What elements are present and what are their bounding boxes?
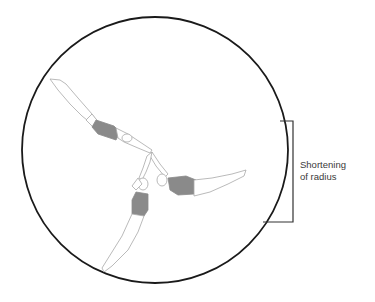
shortening-of-radius-label: Shortening of radius [300,159,346,183]
formation-circle [22,17,288,283]
swimmer-lower [102,152,152,272]
diagram-canvas: Shortening of radius [0,0,375,302]
swimmer-upper-left [50,79,152,153]
label-line-1: Shortening [300,159,346,171]
label-line-2: of radius [300,171,346,183]
swimmer-right [150,152,246,196]
swimmer-suit [168,176,196,195]
shortening-bracket [263,121,293,222]
swimmer-suit [132,192,148,216]
swimmer-suit [92,120,120,140]
diagram-svg [0,0,375,302]
